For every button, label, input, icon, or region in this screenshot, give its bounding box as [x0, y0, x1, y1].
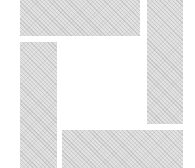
- logo-bar-top: [20, 0, 140, 36]
- logo-bar-right: [147, 0, 183, 124]
- logo-bar-left: [20, 42, 57, 168]
- logo-bar-bottom: [62, 130, 183, 168]
- logo-center-space: [57, 36, 147, 130]
- pinwheel-logo: [0, 0, 195, 168]
